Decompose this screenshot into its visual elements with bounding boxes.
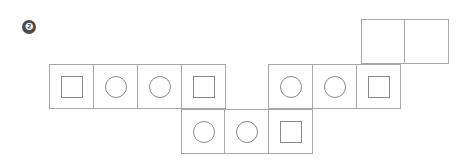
grid-cell-square [49,64,94,109]
grid-cell-square [268,109,313,154]
circle-icon [193,121,215,143]
circle-icon [236,121,258,143]
problem-number-badge: ❷ [22,20,36,34]
circle-icon [105,76,127,98]
circle-icon [280,76,302,98]
grid-cell-circle [268,64,313,109]
square-icon [368,76,390,98]
square-icon [193,76,215,98]
grid-cell-circle [312,64,357,109]
grid-cell-circle [137,64,182,109]
circle-icon [324,76,346,98]
grid-cell-empty [404,19,449,64]
grid-cell-circle [224,109,269,154]
grid-cell-circle [181,109,226,154]
square-icon [61,76,83,98]
grid-cell-empty [361,19,406,64]
grid-cell-circle [93,64,138,109]
grid-cell-square [181,64,226,109]
circle-icon [149,76,171,98]
grid-cell-square [356,64,401,109]
square-icon [280,121,302,143]
